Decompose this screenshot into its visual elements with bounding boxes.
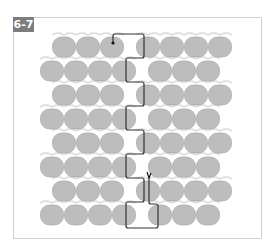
bead [137, 181, 160, 201]
bead [149, 61, 172, 81]
bead [53, 181, 76, 201]
bead [149, 157, 172, 177]
bead [89, 61, 112, 81]
bead [53, 85, 76, 105]
bead [197, 205, 220, 225]
bead [41, 205, 64, 225]
bead [137, 133, 160, 153]
bead [161, 133, 184, 153]
bead [89, 157, 112, 177]
thread-start-dot [111, 41, 114, 44]
bead [173, 205, 196, 225]
bead [137, 85, 160, 105]
bead [185, 133, 208, 153]
bead [113, 109, 136, 129]
bead [101, 133, 124, 153]
bead [101, 85, 124, 105]
bead [209, 85, 232, 105]
bead [185, 37, 208, 57]
bead [65, 157, 88, 177]
bead [209, 133, 232, 153]
beadwork-diagram [0, 0, 268, 243]
bead [113, 157, 136, 177]
bead [77, 85, 100, 105]
bead [77, 133, 100, 153]
bead [173, 61, 196, 81]
bead [77, 181, 100, 201]
bead [101, 37, 124, 57]
bead [149, 205, 172, 225]
bead [41, 157, 64, 177]
bead [101, 181, 124, 201]
bead [65, 61, 88, 81]
bead [161, 181, 184, 201]
bead [53, 133, 76, 153]
bead [197, 109, 220, 129]
bead [113, 61, 136, 81]
bead [185, 85, 208, 105]
bead [209, 37, 232, 57]
bead [149, 109, 172, 129]
bead [161, 37, 184, 57]
bead [65, 205, 88, 225]
bead [53, 37, 76, 57]
bead [137, 37, 160, 57]
bead [173, 109, 196, 129]
bead [89, 205, 112, 225]
bead [77, 37, 100, 57]
bead [41, 61, 64, 81]
bead [65, 109, 88, 129]
bead [173, 157, 196, 177]
bead [161, 85, 184, 105]
bead [41, 109, 64, 129]
bead [209, 181, 232, 201]
bead [89, 109, 112, 129]
bead [197, 157, 220, 177]
bead [185, 181, 208, 201]
bead [113, 205, 136, 225]
bead [197, 61, 220, 81]
